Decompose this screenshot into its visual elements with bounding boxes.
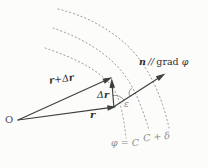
normal-vector-label: n//grad φ <box>139 57 188 67</box>
level-curve-inner <box>45 48 126 138</box>
level-curve-outer <box>58 9 169 128</box>
vector-r-label: r <box>90 110 95 120</box>
vector-dr-line <box>112 88 114 107</box>
diagram-canvas <box>0 0 208 168</box>
delta-r-label: Δr <box>97 90 109 100</box>
vector-n-line <box>114 78 158 106</box>
level-curve-c-label: φ = C <box>111 138 139 148</box>
epsilon-angle-label: ε <box>124 100 129 109</box>
vector-dr-arrowhead <box>110 80 114 87</box>
gradient-level-curve-diagram: O r+Δr Δr r n//grad φ ε φ = C C + δ <box>0 0 208 168</box>
vector-n-arrowhead <box>157 75 164 81</box>
vector-r-plus-dr-arrowhead <box>103 78 110 83</box>
origin-label: O <box>5 115 13 125</box>
